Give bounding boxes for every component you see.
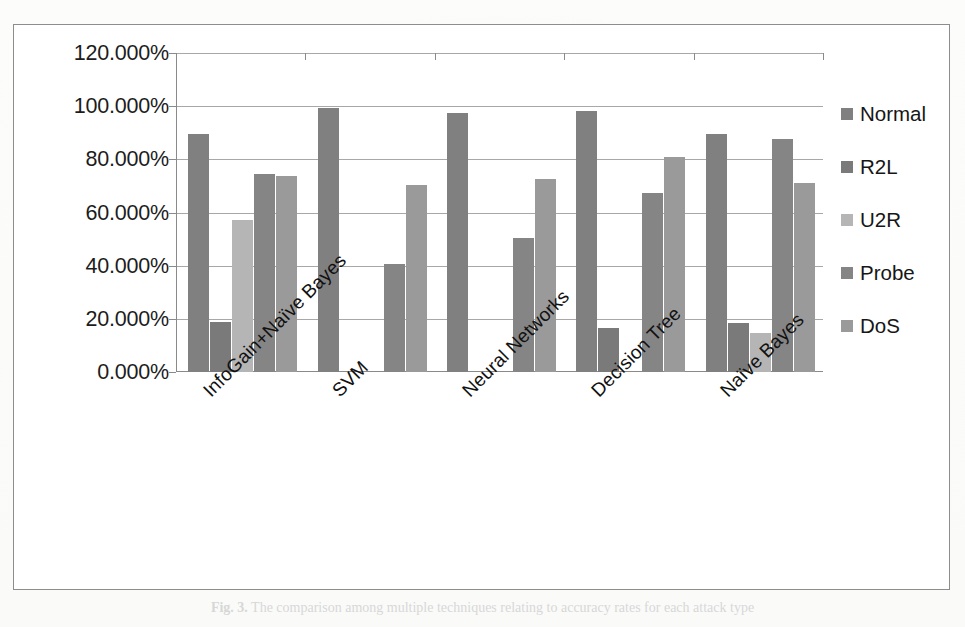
y-axis-tick — [169, 266, 176, 267]
legend-item[interactable]: DoS — [841, 299, 961, 352]
y-axis-tick — [169, 106, 176, 107]
legend-item[interactable]: R2L — [841, 140, 961, 193]
legend-item[interactable]: Normal — [841, 87, 961, 140]
figure-label: Fig. 3. — [211, 600, 248, 615]
y-axis-tick-labels: 120.000%100.000%80.000%60.000%40.000%20.… — [14, 49, 169, 380]
legend-swatch-icon — [841, 214, 853, 226]
legend-label: Probe — [860, 261, 915, 285]
y-axis-tick — [169, 372, 176, 373]
bar — [576, 111, 597, 372]
bar — [706, 134, 727, 372]
legend-swatch-icon — [841, 267, 853, 279]
legend-label: U2R — [860, 208, 901, 232]
legend-label: Normal — [860, 102, 926, 126]
y-axis-tick-label: 80.000% — [86, 147, 169, 172]
y-axis-tick — [169, 213, 176, 214]
legend-item[interactable]: Probe — [841, 246, 961, 299]
y-axis-tick-label: 60.000% — [86, 200, 169, 225]
y-axis-tick-label: 120.000% — [74, 41, 169, 66]
bar — [406, 185, 427, 372]
x-axis-tick — [694, 53, 695, 60]
x-axis-tick — [435, 53, 436, 60]
chart-legend: NormalR2LU2RProbeDoS — [841, 87, 961, 352]
bar — [664, 157, 685, 372]
x-axis-tick — [823, 53, 824, 60]
bar — [535, 179, 556, 372]
scanned-page: 120.000%100.000%80.000%60.000%40.000%20.… — [0, 0, 965, 627]
figure-caption-text: The comparison among multiple techniques… — [251, 600, 754, 615]
bar — [276, 176, 297, 372]
y-axis-line — [176, 53, 177, 372]
bar — [384, 264, 405, 372]
bar — [447, 113, 468, 372]
legend-swatch-icon — [841, 320, 853, 332]
legend-label: R2L — [860, 155, 898, 179]
x-axis-tick — [564, 53, 565, 60]
bar — [188, 134, 209, 372]
y-axis-tick-label: 40.000% — [86, 253, 169, 278]
legend-swatch-icon — [841, 161, 853, 173]
y-axis-tick-label: 0.000% — [97, 360, 169, 385]
figure-caption: Fig. 3. The comparison among multiple te… — [0, 600, 965, 616]
y-axis-tick-label: 20.000% — [86, 306, 169, 331]
bar — [318, 108, 339, 373]
y-axis-tick — [169, 53, 176, 54]
legend-label: DoS — [860, 314, 900, 338]
y-axis-tick — [169, 159, 176, 160]
x-axis-tick — [176, 53, 177, 60]
bar-group — [318, 53, 427, 372]
y-axis-tick — [169, 319, 176, 320]
legend-item[interactable]: U2R — [841, 193, 961, 246]
chart-frame: 120.000%100.000%80.000%60.000%40.000%20.… — [13, 24, 950, 590]
x-axis-tick — [305, 53, 306, 60]
bar — [794, 183, 815, 372]
y-axis-tick-label: 100.000% — [74, 94, 169, 119]
legend-swatch-icon — [841, 108, 853, 120]
